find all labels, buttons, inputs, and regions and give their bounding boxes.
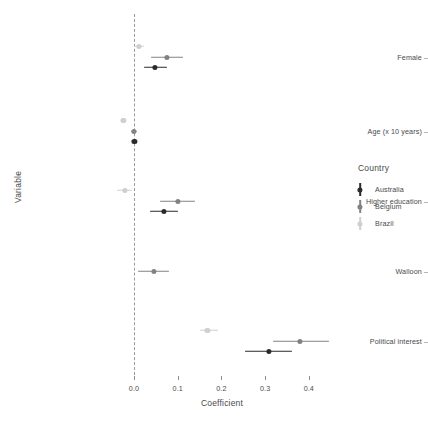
- estimate-brazil-higher-education: [111, 186, 138, 195]
- legend-item-australia[interactable]: Australia: [352, 181, 428, 198]
- y-tick-female: Female–: [310, 53, 428, 62]
- legend-key-dot: [357, 204, 362, 209]
- y-tick-dash: –: [422, 267, 428, 276]
- x-axis-title: Coefficient: [134, 398, 310, 408]
- estimate-point: [131, 128, 136, 133]
- y-tick-dash: –: [422, 53, 428, 62]
- estimate-point: [175, 198, 180, 203]
- legend-item-belgium[interactable]: Belgium: [352, 198, 428, 215]
- x-tick-0-4: 0.4: [304, 384, 314, 393]
- legend-items: AustraliaBelgiumBrazil: [352, 181, 428, 232]
- y-tick-label: Walloon: [395, 267, 421, 276]
- legend-item-brazil[interactable]: Brazil: [352, 215, 428, 232]
- estimate-point: [266, 348, 271, 353]
- y-tick-label: Female: [397, 53, 422, 62]
- estimate-brazil-age-x-10-years: [117, 116, 131, 125]
- y-axis-title: Variable: [13, 147, 23, 227]
- x-tick-0-3: 0.3: [260, 384, 270, 393]
- zero-reference-line: [134, 14, 135, 380]
- chart-canvas: Variable Coefficient Female–Age (x 10 ye…: [0, 0, 428, 424]
- y-tick-age-x-10-years: Age (x 10 years)–: [310, 127, 428, 136]
- legend-title: Country: [352, 163, 428, 173]
- x-tick-mark: [221, 376, 222, 380]
- estimate-belgium-political-interest: [267, 337, 335, 346]
- legend-key-icon: [352, 215, 370, 232]
- estimate-point: [121, 117, 126, 122]
- estimate-point: [161, 208, 166, 213]
- estimate-australia-higher-education: [144, 207, 184, 216]
- legend-key-dot: [357, 187, 362, 192]
- estimate-point: [205, 327, 210, 332]
- x-tick-mark: [178, 376, 179, 380]
- y-tick-label: Political interest: [370, 337, 422, 346]
- estimate-point: [152, 64, 157, 69]
- estimate-point: [132, 138, 137, 143]
- y-tick-label: Age (x 10 years): [368, 127, 422, 136]
- estimate-point: [122, 187, 127, 192]
- y-tick-dash: –: [422, 127, 428, 136]
- x-tick-0-1: 0.1: [173, 384, 183, 393]
- x-tick-0-2: 0.2: [216, 384, 226, 393]
- estimate-point: [297, 338, 302, 343]
- y-tick-dash: –: [422, 337, 428, 346]
- estimate-brazil-female: [128, 42, 150, 51]
- x-tick-0-0: 0.0: [129, 384, 139, 393]
- legend-key-dot: [357, 221, 362, 226]
- legend-item-label: Belgium: [370, 202, 402, 211]
- legend-key-icon: [352, 181, 370, 198]
- estimate-point: [165, 54, 170, 59]
- estimate-australia-age-x-10-years: [127, 137, 142, 146]
- y-tick-walloon: Walloon–: [310, 267, 428, 276]
- estimate-belgium-walloon: [132, 267, 175, 276]
- estimate-point: [151, 268, 156, 273]
- x-tick-mark: [134, 376, 135, 380]
- legend-item-label: Australia: [370, 185, 404, 194]
- estimate-belgium-higher-education: [154, 197, 201, 206]
- estimate-belgium-female: [145, 53, 188, 62]
- legend: Country AustraliaBelgiumBrazil: [352, 163, 428, 232]
- legend-key-icon: [352, 198, 370, 215]
- estimate-belgium-age-x-10-years: [125, 127, 143, 136]
- estimate-point: [136, 43, 141, 48]
- estimate-brazil-political-interest: [194, 326, 224, 335]
- x-tick-mark: [309, 376, 310, 380]
- x-tick-mark: [265, 376, 266, 380]
- estimate-australia-political-interest: [239, 347, 298, 356]
- legend-item-label: Brazil: [370, 219, 394, 228]
- estimate-australia-female: [138, 63, 173, 72]
